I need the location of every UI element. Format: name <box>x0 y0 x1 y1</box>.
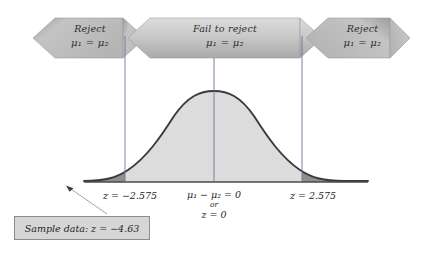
sample-data-text: Sample data: z = −4.63 <box>25 223 140 234</box>
figure-canvas: Reject μ₁ = μ₂ Fail to reject μ₁ = μ₂ Re… <box>0 0 425 253</box>
band-right-reject <box>306 18 410 58</box>
sample-data-callout: Sample data: z = −4.63 <box>14 216 150 240</box>
center-or-text: or <box>166 201 262 209</box>
center-z-text: z = 0 <box>166 210 262 220</box>
band-fail-to-reject <box>128 18 322 58</box>
curve-fill-center <box>84 91 368 182</box>
label-left-critical-value: z = −2.575 <box>85 190 175 201</box>
distribution-curve <box>84 91 368 182</box>
center-main-text: μ₁ − μ₂ = 0 <box>166 190 262 200</box>
label-center-value: μ₁ − μ₂ = 0 or z = 0 <box>166 190 262 220</box>
label-right-critical-value: z = 2.575 <box>268 190 358 201</box>
